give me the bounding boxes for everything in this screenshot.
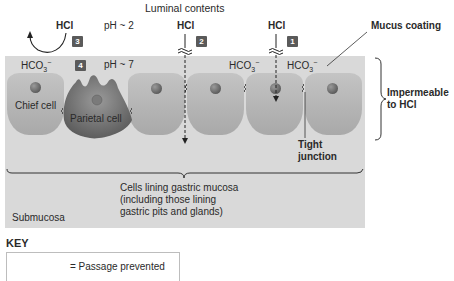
bicarbonate-label-right: HCO3− xyxy=(287,59,317,73)
bicarbonate-label-left: HCO3− xyxy=(21,59,51,73)
key-title: KEY xyxy=(6,237,29,249)
hcl-label-middle: HCl xyxy=(177,20,194,31)
step-badge-2: 2 xyxy=(196,36,207,47)
impermeable-label: Impermeable to HCl xyxy=(387,87,449,111)
parietal-cell-shape xyxy=(64,75,132,138)
parietal-cell-label: Parietal cell xyxy=(70,113,122,124)
hcl-label-right: HCl xyxy=(268,20,285,31)
step-badge-3: 3 xyxy=(72,36,83,47)
chief-cell-label: Chief cell xyxy=(15,100,56,111)
tight-junction-label: Tight junction xyxy=(298,139,337,163)
mucus-coating-label: Mucus coating xyxy=(371,20,441,31)
ph-mucus-label: pH ~ 7 xyxy=(104,59,134,70)
step-badge-1: 1 xyxy=(287,36,298,47)
cells-lining-label: Cells lining gastric mucosa (including t… xyxy=(120,182,238,218)
ph-lumen-label: pH ~ 2 xyxy=(104,20,134,31)
bicarbonate-label-middle: HCO3− xyxy=(229,59,259,73)
key-entry-label: = Passage prevented xyxy=(70,261,165,272)
hcl-label-left: HCl xyxy=(56,20,73,31)
submucosa-label: Submucosa xyxy=(12,212,65,223)
step-badge-4: 4 xyxy=(75,60,86,71)
